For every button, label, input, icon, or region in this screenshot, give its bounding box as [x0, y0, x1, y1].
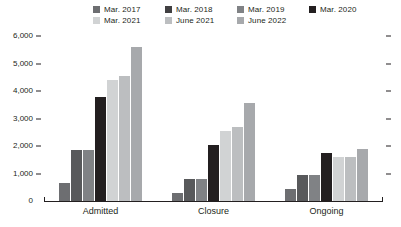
- legend-item-label: June 2022: [248, 17, 286, 25]
- legend-item[interactable]: June 2021: [165, 15, 237, 26]
- legend-item-label: Mar. 2021: [104, 17, 140, 25]
- y-axis-tickmark-right: [386, 63, 391, 64]
- legend-item[interactable]: Mar. 2019: [237, 4, 309, 15]
- legend-item-label: Mar. 2019: [248, 6, 284, 14]
- bar[interactable]: [95, 97, 106, 202]
- y-axis-tick-label: 6,000: [13, 32, 33, 40]
- legend-item-label: Mar. 2018: [176, 6, 212, 14]
- y-axis-tickmark: [36, 63, 41, 64]
- bar[interactable]: [232, 127, 243, 201]
- legend-item[interactable]: Mar. 2018: [165, 4, 237, 15]
- y-axis-tickmark: [36, 36, 41, 37]
- y-axis-tickmark-right: [386, 146, 391, 147]
- legend-swatch-icon: [93, 17, 100, 24]
- y-axis-tickmark-right: [386, 91, 391, 92]
- bar-group: [44, 36, 157, 201]
- legend-swatch-icon: [165, 17, 172, 24]
- legend-swatch-icon: [237, 17, 244, 24]
- bar[interactable]: [244, 103, 255, 201]
- chart-legend: Mar. 2017Mar. 2018Mar. 2019Mar. 2020Mar.…: [93, 4, 393, 26]
- x-axis-category-label: Ongoing: [270, 204, 383, 220]
- y-axis-tick-label: 1,000: [13, 170, 33, 178]
- bar[interactable]: [309, 175, 320, 201]
- legend-item-label: Mar. 2017: [104, 6, 140, 14]
- bar[interactable]: [297, 175, 308, 201]
- bar[interactable]: [131, 47, 142, 201]
- x-axis-category-label: Closure: [157, 204, 270, 220]
- legend-item[interactable]: June 2022: [237, 15, 309, 26]
- bar-group: [270, 36, 383, 201]
- x-axis-labels: AdmittedClosureOngoing: [44, 204, 383, 220]
- y-axis-tick-label: 0: [29, 197, 33, 205]
- bar[interactable]: [107, 80, 118, 201]
- y-axis-tick-label: 3,000: [13, 115, 33, 123]
- y-axis-tick-label: 2,000: [13, 142, 33, 150]
- bar[interactable]: [208, 145, 219, 201]
- bar[interactable]: [119, 76, 130, 201]
- legend-item[interactable]: Mar. 2021: [93, 15, 165, 26]
- plot-area: [44, 36, 383, 201]
- bar-group: [157, 36, 270, 201]
- bar[interactable]: [357, 149, 368, 201]
- y-axis-tick-label: 4,000: [13, 87, 33, 95]
- bar[interactable]: [321, 153, 332, 201]
- bar[interactable]: [83, 150, 94, 201]
- bar[interactable]: [59, 183, 70, 201]
- x-axis-right-cap: [382, 197, 383, 202]
- legend-item-label: June 2021: [176, 17, 214, 25]
- y-axis-tickmark-right: [386, 36, 391, 37]
- x-axis-line: [44, 201, 383, 202]
- y-axis-tickmark: [36, 173, 41, 174]
- bar[interactable]: [196, 179, 207, 201]
- y-axis-labels: 6,0005,0004,0003,0002,0001,0000: [0, 0, 33, 227]
- bar[interactable]: [333, 157, 344, 201]
- bar-chart: Mar. 2017Mar. 2018Mar. 2019Mar. 2020Mar.…: [0, 0, 401, 227]
- legend-swatch-icon: [93, 6, 100, 13]
- legend-item-label: Mar. 2020: [320, 6, 356, 14]
- bar[interactable]: [345, 157, 356, 201]
- legend-swatch-icon: [165, 6, 172, 13]
- y-axis-tickmark: [36, 118, 41, 119]
- y-axis-tickmark-right: [386, 173, 391, 174]
- bar[interactable]: [172, 193, 183, 201]
- bar[interactable]: [184, 179, 195, 201]
- legend-swatch-icon: [309, 6, 316, 13]
- legend-item[interactable]: Mar. 2020: [309, 4, 381, 15]
- bar[interactable]: [220, 131, 231, 201]
- y-axis-tickmark: [36, 146, 41, 147]
- legend-item[interactable]: Mar. 2017: [93, 4, 165, 15]
- bar[interactable]: [285, 189, 296, 201]
- y-axis-tick-label: 5,000: [13, 60, 33, 68]
- x-axis-category-label: Admitted: [44, 204, 157, 220]
- x-axis-left-cap: [44, 197, 45, 202]
- legend-swatch-icon: [237, 6, 244, 13]
- y-axis-tickmark: [36, 91, 41, 92]
- y-axis-tickmark-right: [386, 118, 391, 119]
- bar[interactable]: [71, 150, 82, 201]
